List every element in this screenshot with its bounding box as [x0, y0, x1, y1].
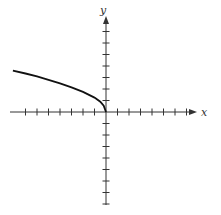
y-axis-label: y: [99, 4, 107, 17]
function-curve: [13, 71, 106, 112]
function-graph: y x: [0, 0, 221, 215]
x-axis-label: x: [201, 106, 208, 119]
axes: [10, 16, 197, 205]
